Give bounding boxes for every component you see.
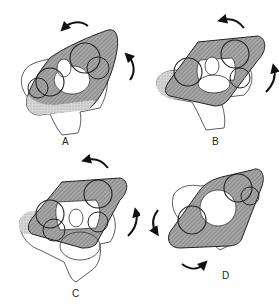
rotation-arrow-right — [266, 68, 275, 92]
foramen-small — [69, 209, 83, 227]
panel-label-d: D — [222, 270, 229, 281]
panel-a: A — [0, 0, 140, 150]
foramen-small — [57, 59, 71, 77]
rotation-arrow-left — [153, 210, 158, 232]
foramen-lower — [198, 75, 230, 93]
rotation-arrow-right — [128, 212, 137, 236]
rotation-arrow-right — [128, 56, 134, 80]
panel-label-c: C — [72, 288, 79, 299]
panel-d: D — [140, 150, 279, 305]
panel-label-a: A — [62, 136, 69, 147]
rotation-arrow-bottom — [182, 264, 204, 269]
panel-label-b: B — [212, 136, 219, 147]
panel-b: B — [140, 0, 279, 150]
rotation-arrow-top — [64, 22, 88, 28]
rotation-arrow-top — [222, 19, 244, 28]
foramen-small — [205, 57, 219, 75]
panel-d-drawing — [140, 150, 279, 305]
rotation-arrow-top — [86, 159, 108, 168]
panel-c: C — [0, 150, 140, 305]
panel-c-drawing — [0, 150, 140, 305]
foramen — [200, 190, 236, 226]
panel-b-drawing — [140, 0, 279, 150]
panel-a-drawing — [0, 0, 140, 150]
